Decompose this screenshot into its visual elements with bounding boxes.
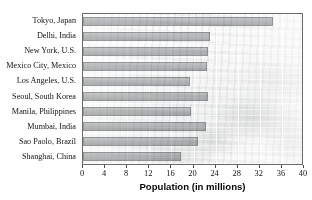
bar [83, 152, 181, 161]
y-axis-label: Los Angeles, U.S. [0, 74, 79, 89]
x-axis-tick-label: 12 [144, 168, 152, 180]
bar-row [83, 89, 302, 104]
x-axis-title: Population (in millions) [82, 181, 303, 192]
bar-row [83, 29, 302, 44]
bar [83, 137, 198, 146]
bar [83, 32, 210, 41]
x-axis-tick-label: 16 [166, 168, 174, 180]
plot-area [82, 13, 303, 165]
bar-row [83, 74, 302, 89]
x-axis-tick-label: 0 [80, 168, 84, 180]
bar-row [83, 14, 302, 29]
y-axis-label: New York, U.S. [0, 43, 79, 58]
bar-row [83, 149, 302, 164]
x-axis-tick-label: 28 [233, 168, 241, 180]
bar [83, 77, 190, 86]
y-axis-label: Sao Paolo, Brazil [0, 135, 79, 150]
bar-series [83, 14, 302, 164]
bar [83, 17, 273, 26]
bar-row [83, 119, 302, 134]
x-axis-tick-label: 20 [188, 168, 196, 180]
y-axis-label: Delhi, India [0, 28, 79, 43]
bar [83, 107, 191, 116]
y-axis-label: Shanghai, China [0, 150, 79, 165]
chart-figure: Tokyo, JapanDelhi, IndiaNew York, U.S.Me… [0, 0, 312, 200]
y-axis-category-labels: Tokyo, JapanDelhi, IndiaNew York, U.S.Me… [0, 13, 79, 165]
y-axis-label: Tokyo, Japan [0, 13, 79, 28]
x-axis-tick-label: 36 [277, 168, 285, 180]
bar-row [83, 134, 302, 149]
bar-row [83, 44, 302, 59]
bar-row [83, 104, 302, 119]
bar [83, 47, 208, 56]
x-axis-tick-label: 24 [210, 168, 218, 180]
x-axis-tick-labels: 0481216202428323640 [82, 168, 303, 180]
bar [83, 122, 206, 131]
bar-row [83, 59, 302, 74]
bar [83, 92, 208, 101]
y-axis-label: Mexico City, Mexico [0, 59, 79, 74]
x-axis-tick-label: 8 [124, 168, 128, 180]
y-axis-label: Seoul, South Korea [0, 89, 79, 104]
bar [83, 62, 207, 71]
x-axis-tick-label: 32 [255, 168, 263, 180]
y-axis-label: Manila, Philippines [0, 104, 79, 119]
x-axis-tick-label: 40 [299, 168, 307, 180]
y-axis-label: Mumbai, India [0, 119, 79, 134]
x-axis-tick-label: 4 [102, 168, 106, 180]
